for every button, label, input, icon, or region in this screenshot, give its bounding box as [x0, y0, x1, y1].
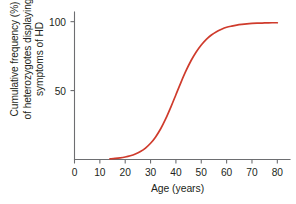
- x-tick-label: 0: [72, 167, 78, 178]
- x-tick-label: 40: [170, 167, 181, 178]
- y-tick-label: 50: [40, 85, 66, 96]
- x-tick-label: 30: [145, 167, 156, 178]
- y-tick-marks: [71, 22, 75, 91]
- chart-figure: Cumulative frequency (%) of heterozygote…: [0, 0, 296, 204]
- sigmoid-curve: [110, 23, 277, 159]
- x-tick-marks: [75, 160, 278, 164]
- x-tick-label: 80: [272, 167, 283, 178]
- x-axis-label: Age (years): [60, 183, 295, 194]
- x-tick-label: 70: [246, 167, 257, 178]
- x-tick-label: 60: [221, 167, 232, 178]
- y-tick-label: 100: [40, 16, 66, 27]
- x-tick-label: 10: [94, 167, 105, 178]
- x-tick-label: 50: [196, 167, 207, 178]
- x-tick-label: 20: [120, 167, 131, 178]
